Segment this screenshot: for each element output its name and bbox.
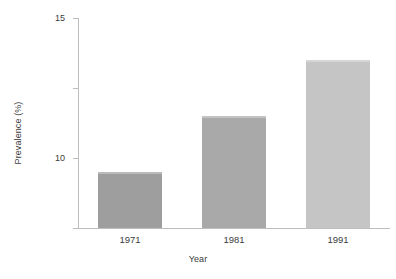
x-tick-label: 1981 bbox=[223, 234, 244, 245]
y-axis-title: Prevalence (%) bbox=[13, 78, 23, 188]
y-tick-label: 15 bbox=[55, 13, 65, 23]
x-axis-line bbox=[78, 228, 390, 229]
y-tick-mark: 5 bbox=[73, 158, 78, 159]
bar bbox=[306, 60, 370, 228]
y-tick-mark: 10 bbox=[73, 88, 78, 89]
x-axis-title: Year bbox=[0, 254, 396, 264]
x-tick-label: 1971 bbox=[119, 234, 140, 245]
y-axis-line bbox=[78, 18, 79, 228]
bar bbox=[98, 172, 162, 228]
y-tick-label: 10 bbox=[55, 153, 65, 163]
y-tick-mark: 0 bbox=[73, 228, 78, 229]
y-tick-mark: 15 bbox=[73, 18, 78, 19]
plot-area: 051015 197119811991 bbox=[78, 18, 390, 228]
bar bbox=[202, 116, 266, 228]
bar-chart-figure: Prevalence (%) 051015 197119811991 Year bbox=[0, 0, 396, 279]
x-tick-label: 1991 bbox=[327, 234, 348, 245]
